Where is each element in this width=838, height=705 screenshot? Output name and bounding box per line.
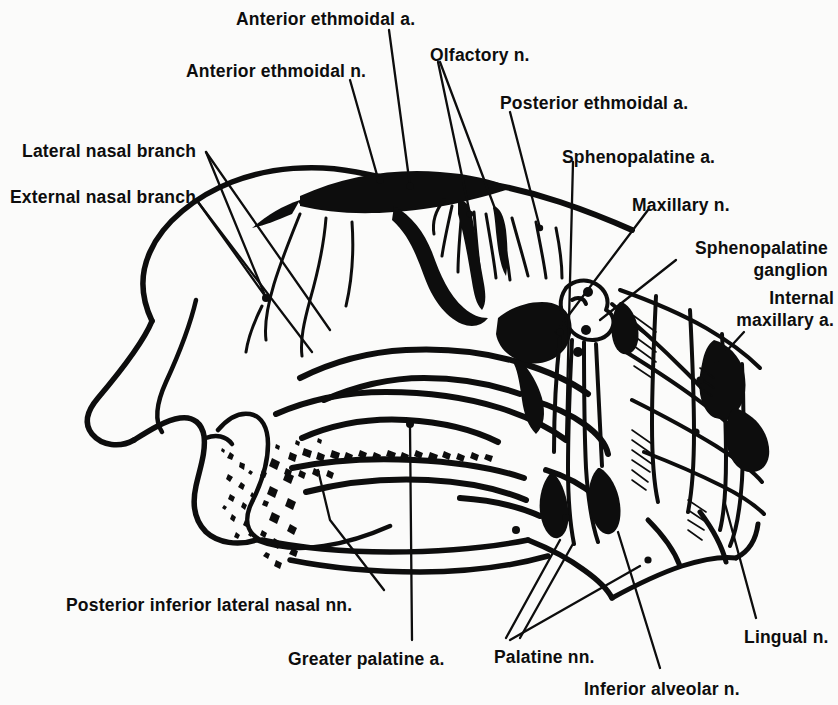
label-external-nasal-branch: External nasal branch xyxy=(10,186,196,208)
label-posterior-ethmoidal-a: Posterior ethmoidal a. xyxy=(500,92,688,114)
label-anterior-ethmoidal-n: Anterior ethmoidal n. xyxy=(186,60,366,82)
label-palatine-nn: Palatine nn. xyxy=(494,646,595,668)
label-greater-palatine-a: Greater palatine a. xyxy=(288,648,445,670)
label-lateral-nasal-branch: Lateral nasal branch xyxy=(22,140,196,162)
label-sphenopalatine-ganglion: Sphenopalatine ganglion xyxy=(676,238,828,282)
label-posterior-inferior-lateral-nasal-nn: Posterior inferior lateral nasal nn. xyxy=(66,594,352,616)
leader-lines xyxy=(198,30,756,668)
label-lingual-n: Lingual n. xyxy=(744,626,829,648)
label-olfactory-n: Olfactory n. xyxy=(430,44,530,66)
fossa-hatching xyxy=(632,316,714,540)
label-maxillary-n: Maxillary n. xyxy=(632,194,730,216)
label-anterior-ethmoidal-a: Anterior ethmoidal a. xyxy=(236,8,415,30)
label-sphenopalatine-a: Sphenopalatine a. xyxy=(562,146,715,168)
anatomical-figure: Anterior ethmoidal a. Anterior ethmoidal… xyxy=(0,0,838,705)
lower-dark-masses xyxy=(540,468,621,538)
leader-endpoints xyxy=(262,176,704,563)
bone-stipple-maxilla xyxy=(260,458,298,569)
olfactory-bundle xyxy=(458,200,508,310)
label-inferior-alveolar-n: Inferior alveolar n. xyxy=(584,678,740,700)
label-internal-maxillary-a: Internal maxillary a. xyxy=(720,288,834,332)
